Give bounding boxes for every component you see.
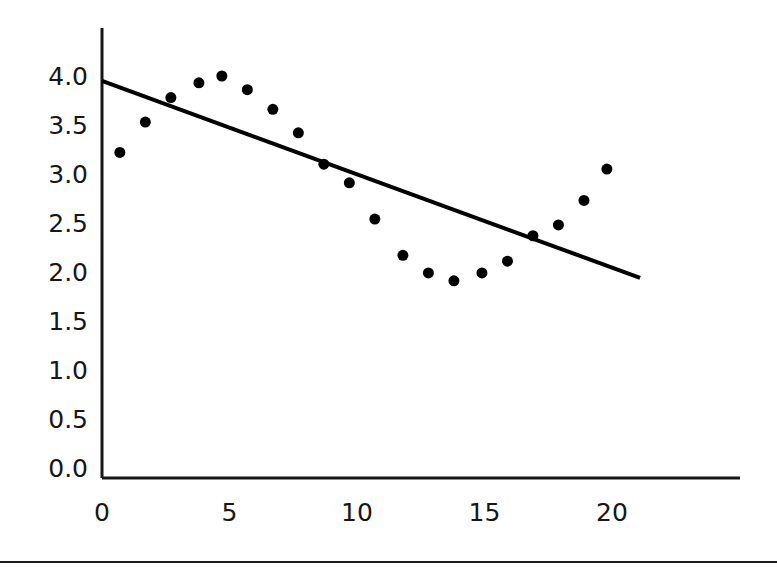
y-tick-label: 3.5 [48, 111, 88, 140]
data-point [293, 127, 304, 138]
y-tick-label: 4.0 [48, 62, 88, 91]
x-tick-label: 5 [222, 498, 238, 527]
scatter-plot: 0.00.51.01.52.02.53.03.54.0 05101520 [0, 0, 777, 577]
data-point [476, 267, 487, 278]
y-tick-label: 0.5 [48, 405, 88, 434]
data-point [193, 77, 204, 88]
data-point [578, 195, 589, 206]
y-tick-label: 2.0 [48, 258, 88, 287]
data-point [553, 219, 564, 230]
y-tick-label: 0.0 [48, 454, 88, 483]
data-point [502, 256, 513, 267]
x-tick-label: 15 [469, 498, 501, 527]
data-point [216, 71, 227, 82]
trend-line-segment [102, 81, 640, 278]
data-point [601, 164, 612, 175]
data-point [165, 92, 176, 103]
data-point [344, 177, 355, 188]
data-point [267, 104, 278, 115]
x-axis-tick-labels: 05101520 [94, 498, 628, 527]
y-tick-label: 2.5 [48, 209, 88, 238]
data-point [114, 147, 125, 158]
data-point [448, 275, 459, 286]
figure-bottom-rule [0, 561, 777, 563]
figure-container: 0.00.51.01.52.02.53.03.54.0 05101520 [0, 0, 777, 577]
y-tick-label: 1.0 [48, 356, 88, 385]
data-point [397, 250, 408, 261]
trend-line [102, 81, 640, 278]
x-tick-label: 0 [94, 498, 110, 527]
data-point [527, 230, 538, 241]
axes-group [102, 28, 740, 478]
y-tick-label: 1.5 [48, 307, 88, 336]
data-point [318, 159, 329, 170]
y-tick-label: 3.0 [48, 160, 88, 189]
data-point [140, 117, 151, 128]
y-axis-tick-labels: 0.00.51.01.52.02.53.03.54.0 [48, 62, 88, 483]
data-point [369, 214, 380, 225]
x-tick-label: 20 [596, 498, 628, 527]
x-tick-label: 10 [341, 498, 373, 527]
data-point [242, 84, 253, 95]
data-point [423, 267, 434, 278]
